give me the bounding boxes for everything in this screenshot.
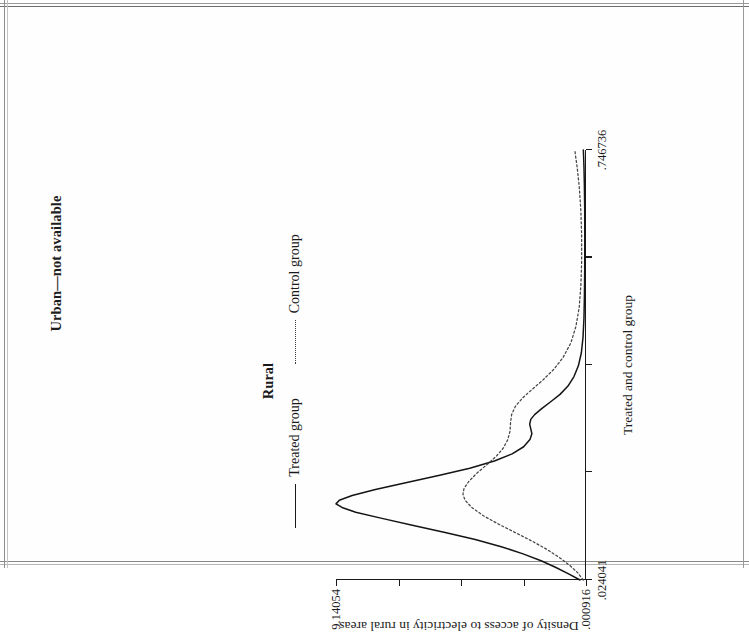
legend-label-control-group: Control group	[287, 234, 303, 313]
y-axis-title: Density of access to electricity in rura…	[299, 618, 619, 634]
x-axis-title: Treated and control group	[620, 150, 636, 580]
x-tick-3	[586, 256, 592, 257]
y-tick-0	[586, 580, 587, 586]
x-tick-0	[586, 579, 592, 580]
legend-heading: Rural	[260, 256, 277, 506]
urban-panel-label: Urban—not available	[48, 164, 65, 364]
plot-area: .0009169.14054 .024041.746736 Density of…	[336, 150, 586, 580]
curve-treated-group	[336, 150, 585, 580]
y-tick-2	[461, 580, 462, 586]
page-border-left	[4, 0, 5, 568]
y-tick-4	[336, 580, 337, 586]
page-border-right	[743, 0, 744, 568]
x-tick-2	[586, 364, 592, 365]
y-tick-1	[524, 580, 525, 586]
legend-key-solid-line-icon	[295, 484, 296, 528]
legend-key-dotted-line-icon	[295, 320, 296, 364]
page-border-top-inner	[0, 6, 749, 7]
x-tick-label-4: .746736	[595, 130, 610, 171]
x-tick-4	[586, 149, 592, 150]
page-border-left-inner	[7, 0, 8, 568]
x-tick-1	[586, 471, 592, 472]
legend-item-control-group: Control group	[287, 234, 303, 364]
chart-legend: Rural Treated group Control group	[260, 256, 303, 506]
x-tick-label-0: .024041	[595, 560, 610, 601]
density-curves	[336, 150, 586, 580]
curve-control-group	[463, 150, 583, 580]
legend-label-treated-group: Treated group	[287, 398, 303, 476]
y-tick-3	[399, 580, 400, 586]
page-border-top	[0, 3, 749, 4]
legend-item-treated-group: Treated group	[287, 398, 303, 527]
rural-density-chart: Rural Treated group Control group .00091…	[252, 114, 622, 635]
